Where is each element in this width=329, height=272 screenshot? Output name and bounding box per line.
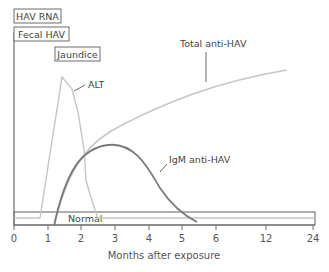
tick-label-2: 2	[78, 233, 84, 244]
jaundice-label: Jaundice	[56, 49, 98, 60]
fecal-hav-label: Fecal HAV	[18, 29, 66, 40]
tick-label-5: 5	[179, 233, 185, 244]
hav-rna-label: HAV RNA	[16, 11, 59, 22]
x-axis-ticks	[14, 225, 313, 230]
x-axis-label: Months after exposure	[108, 250, 221, 261]
tick-label-1: 1	[45, 233, 51, 244]
total-anti-hav-label: Total anti-HAV	[179, 38, 247, 49]
tick-label-0: 0	[11, 233, 17, 244]
alt-leader-line	[74, 85, 85, 91]
tick-label-24: 24	[307, 233, 320, 244]
tick-label-4: 4	[146, 233, 152, 244]
igm-leader-line	[160, 164, 167, 172]
igm-anti-hav-label: IgM anti-HAV	[169, 154, 231, 165]
hav-infection-chart: 0 1 2 3 4 5 6 12 24 Months after exposur…	[0, 0, 329, 272]
alt-label: ALT	[88, 79, 104, 90]
tick-label-6: 6	[213, 233, 219, 244]
tick-label-3: 3	[112, 233, 118, 244]
tick-label-12: 12	[260, 233, 273, 244]
alt-curve	[14, 77, 315, 218]
